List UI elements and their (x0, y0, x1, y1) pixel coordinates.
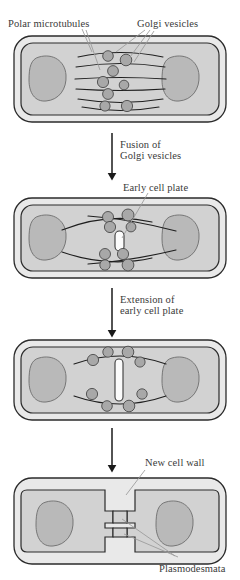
label-new-cell-wall: New cell wall (145, 457, 205, 469)
nucleus-left (29, 56, 66, 101)
stage-4-cell (14, 470, 226, 564)
stage-1-cell (14, 29, 226, 122)
label-golgi-vesicles: Golgi vesicles (137, 18, 198, 30)
diagram-canvas (0, 0, 240, 580)
cytokinesis-diagram: Polar microtubules Golgi vesicles Fusion… (0, 0, 240, 580)
transition-2-line2: early cell plate (120, 305, 183, 317)
label-polar-microtubules: Polar microtubules (8, 18, 89, 30)
nucleus-right (162, 56, 199, 101)
extended-cell-plate-shape (115, 359, 123, 401)
transition-1-line1: Fusion of (120, 139, 161, 151)
transition-1-line2: Golgi vesicles (120, 150, 181, 162)
transition-2-line1: Extension of (120, 294, 175, 306)
label-early-cell-plate: Early cell plate (123, 182, 188, 194)
label-plasmodesmata: Plasmodesmata (159, 563, 226, 575)
stage-3-cell (14, 340, 226, 420)
stage-2-cell (14, 193, 226, 278)
